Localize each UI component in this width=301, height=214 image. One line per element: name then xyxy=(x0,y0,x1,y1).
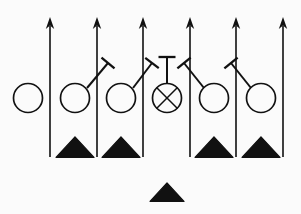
right-tackle xyxy=(247,84,276,113)
play-diagram-svg xyxy=(0,0,301,214)
left-wide-lineman xyxy=(14,84,43,113)
left-tackle-circle xyxy=(61,84,90,113)
left-tackle xyxy=(61,84,90,113)
left-guard-circle xyxy=(107,84,136,113)
left-wide-lineman-circle xyxy=(14,84,43,113)
play-diagram-canvas xyxy=(0,0,301,214)
right-guard xyxy=(200,84,229,113)
right-guard-circle xyxy=(200,84,229,113)
right-tackle-circle xyxy=(247,84,276,113)
left-guard xyxy=(107,84,136,113)
center xyxy=(153,84,182,113)
